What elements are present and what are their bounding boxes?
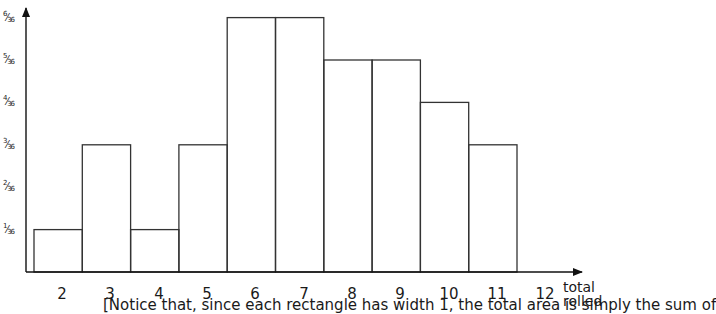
y-tick-label: 4⁄36	[3, 94, 14, 108]
bar-4	[131, 230, 179, 272]
bar-3	[82, 145, 130, 272]
y-tick-label: 6⁄36	[3, 10, 14, 24]
y-tick-label: 5⁄36	[3, 52, 14, 66]
bar-7	[276, 18, 324, 272]
bar-6	[227, 18, 275, 272]
bars	[34, 18, 517, 272]
x-tick-label: 2	[42, 285, 82, 303]
bar-10	[420, 102, 468, 272]
y-tick-label: 2⁄36	[3, 179, 14, 193]
bar-9	[372, 60, 420, 272]
x-axis-title-line1: total	[563, 280, 602, 294]
y-tick-label: 1⁄36	[3, 222, 14, 236]
bar-2	[34, 230, 82, 272]
bar-5	[179, 145, 227, 272]
bar-11	[469, 145, 517, 272]
caption-text: [Notice that, since each rectangle has w…	[103, 296, 716, 314]
bar-8	[324, 60, 372, 272]
y-tick-label: 3⁄36	[3, 137, 14, 151]
